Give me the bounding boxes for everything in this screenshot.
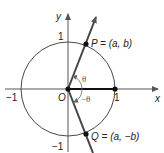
y-axis-label: y xyxy=(55,11,62,22)
tick-y-pos: 1 xyxy=(58,31,64,42)
point-P xyxy=(83,41,88,46)
point-P-label-text: P = (a, b) xyxy=(91,38,132,49)
point-Q-label-text: Q = (a, −b) xyxy=(91,131,139,142)
point-Q xyxy=(83,131,88,136)
origin-point xyxy=(65,86,70,91)
tick-x-pos: 1 xyxy=(114,92,120,103)
tick-x-neg: −1 xyxy=(6,92,18,103)
angle-neg-theta-label: −θ xyxy=(81,94,90,104)
angle-arc-theta xyxy=(73,76,82,89)
point-Q-label: Q = (a, −b) xyxy=(91,131,139,142)
tick-y-neg: −1 xyxy=(52,141,64,152)
origin-label: O xyxy=(58,92,66,103)
point-P-label: P = (a, b) xyxy=(91,38,132,49)
unit-circle-diagram: y x 1 −1 −1 1 O P = (a, b) Q = (a, −b) θ… xyxy=(0,0,164,153)
point-one-zero xyxy=(112,86,117,91)
x-axis-label: x xyxy=(154,93,161,104)
angle-theta-label: θ xyxy=(82,74,86,84)
